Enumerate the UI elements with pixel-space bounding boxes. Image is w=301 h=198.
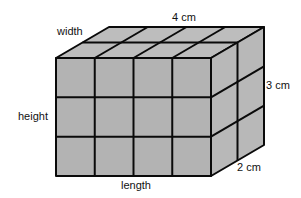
top-dimension-label: 4 cm xyxy=(172,12,196,23)
length-label: length xyxy=(121,180,151,191)
right-dimension-label: 3 cm xyxy=(266,80,290,91)
depth-dimension-label: 2 cm xyxy=(237,162,261,173)
width-label: width xyxy=(57,26,83,37)
height-label: height xyxy=(18,111,48,122)
cube-prism-diagram: width 4 cm 3 cm height length 2 cm xyxy=(0,0,301,198)
